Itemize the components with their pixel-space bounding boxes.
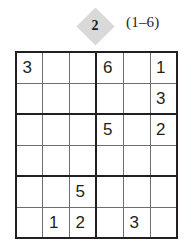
- sudoku-cell[interactable]: 6: [96, 52, 123, 83]
- sudoku-cell-value: [70, 53, 95, 83]
- sudoku-cell[interactable]: [123, 145, 150, 176]
- sudoku-cell[interactable]: [150, 207, 177, 238]
- sudoku-cell[interactable]: 3: [150, 83, 177, 114]
- sudoku-cell-value: [43, 115, 69, 145]
- sudoku-cell-value: [70, 146, 95, 176]
- sudoku-cell[interactable]: [70, 83, 97, 114]
- sudoku-cell-value: [124, 115, 150, 145]
- sudoku-cell-value: 2: [151, 115, 176, 145]
- sudoku-cell-value: [97, 177, 122, 207]
- sudoku-cell-value: 3: [151, 84, 176, 114]
- puzzle-number-badge: 2: [76, 7, 114, 45]
- sudoku-cell-value: [17, 115, 42, 145]
- sudoku-cell[interactable]: [70, 145, 97, 176]
- sudoku-cell-value: 3: [17, 53, 42, 83]
- sudoku-cell[interactable]: [96, 83, 123, 114]
- sudoku-grid-body: 3613525123: [16, 52, 177, 238]
- sudoku-row: [16, 145, 177, 176]
- sudoku-cell[interactable]: [43, 52, 70, 83]
- sudoku-cell[interactable]: [16, 114, 43, 145]
- sudoku-cell-value: [151, 146, 176, 176]
- sudoku-cell[interactable]: [150, 176, 177, 207]
- sudoku-cell[interactable]: 3: [16, 52, 43, 83]
- sudoku-cell-value: 3: [124, 208, 150, 238]
- sudoku-cell[interactable]: [16, 207, 43, 238]
- sudoku-cell-value: 6: [97, 53, 122, 83]
- sudoku-cell[interactable]: [16, 176, 43, 207]
- sudoku-cell[interactable]: 3: [123, 207, 150, 238]
- sudoku-cell[interactable]: [43, 83, 70, 114]
- sudoku-cell[interactable]: [123, 83, 150, 114]
- sudoku-cell-value: [43, 53, 69, 83]
- sudoku-cell-value: 1: [151, 53, 176, 83]
- sudoku-cell-value: [17, 208, 42, 238]
- sudoku-cell[interactable]: [43, 145, 70, 176]
- puzzle-header: 2 (1–6): [0, 0, 192, 52]
- sudoku-cell-value: [43, 177, 69, 207]
- sudoku-cell[interactable]: [16, 145, 43, 176]
- sudoku-cell-value: [151, 177, 176, 207]
- sudoku-cell-value: [17, 177, 42, 207]
- sudoku-cell[interactable]: [70, 114, 97, 145]
- sudoku-cell-value: [70, 115, 95, 145]
- sudoku-row: 5: [16, 176, 177, 207]
- sudoku-cell-value: [124, 146, 150, 176]
- sudoku-cell[interactable]: 5: [70, 176, 97, 207]
- sudoku-grid: 3613525123: [15, 51, 178, 239]
- sudoku-cell[interactable]: [123, 52, 150, 83]
- sudoku-cell[interactable]: [96, 207, 123, 238]
- sudoku-cell[interactable]: 1: [150, 52, 177, 83]
- sudoku-row: 52: [16, 114, 177, 145]
- digit-range-label: (1–6): [126, 14, 160, 31]
- sudoku-cell-value: [17, 146, 42, 176]
- sudoku-cell[interactable]: [150, 145, 177, 176]
- sudoku-cell[interactable]: [96, 145, 123, 176]
- sudoku-cell[interactable]: [43, 114, 70, 145]
- sudoku-cell[interactable]: [70, 52, 97, 83]
- sudoku-cell[interactable]: [16, 83, 43, 114]
- sudoku-cell-value: [124, 177, 150, 207]
- sudoku-row: 3: [16, 83, 177, 114]
- sudoku-cell-value: [124, 84, 150, 114]
- sudoku-cell[interactable]: [96, 176, 123, 207]
- sudoku-cell-value: 2: [70, 208, 95, 238]
- sudoku-cell-value: [97, 146, 122, 176]
- sudoku-cell-value: [97, 208, 122, 238]
- sudoku-cell[interactable]: 2: [150, 114, 177, 145]
- sudoku-cell[interactable]: 5: [96, 114, 123, 145]
- sudoku-cell[interactable]: [43, 176, 70, 207]
- sudoku-cell-value: [97, 84, 122, 114]
- sudoku-cell-value: 1: [43, 208, 69, 238]
- sudoku-cell-value: [43, 146, 69, 176]
- sudoku-cell-value: [124, 53, 150, 83]
- sudoku-cell-value: [43, 84, 69, 114]
- sudoku-cell[interactable]: [123, 114, 150, 145]
- sudoku-puzzle: 2 (1–6) 3613525123: [0, 0, 192, 245]
- sudoku-cell[interactable]: 1: [43, 207, 70, 238]
- sudoku-cell[interactable]: 2: [70, 207, 97, 238]
- sudoku-cell[interactable]: [123, 176, 150, 207]
- sudoku-cell-value: 5: [97, 115, 122, 145]
- puzzle-number: 2: [76, 7, 114, 45]
- sudoku-cell-value: 5: [70, 177, 95, 207]
- sudoku-row: 123: [16, 207, 177, 238]
- sudoku-cell-value: [70, 84, 95, 114]
- sudoku-cell-value: [17, 84, 42, 114]
- sudoku-row: 361: [16, 52, 177, 83]
- sudoku-cell-value: [151, 208, 176, 238]
- sudoku-grid-container: 3613525123: [15, 51, 178, 232]
